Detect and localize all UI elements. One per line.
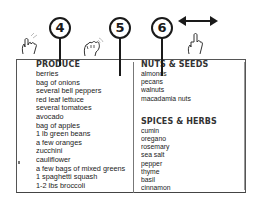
frame-edge: [244, 62, 245, 190]
tap-hand-icon: [20, 32, 42, 56]
section-heading-nuts-seeds: NUTS & SEEDS: [141, 60, 241, 70]
list-item: almonds: [141, 70, 241, 78]
section-spacer: [141, 103, 241, 117]
nuts-seeds-column[interactable]: NUTS & SEEDS almonds pecans walnuts maca…: [141, 60, 241, 191]
list-item: rosemary: [141, 143, 241, 151]
callout-5: 5: [109, 17, 131, 39]
callout-line-5: [119, 38, 121, 76]
edge-mark: [18, 161, 20, 164]
callout-6: 6: [151, 17, 173, 39]
horizontal-drag-hand-icon: [185, 32, 207, 56]
callout-line-4: [59, 38, 61, 66]
list-item: walnuts: [141, 86, 241, 94]
produce-column[interactable]: PRODUCE berries bag of onions several be…: [36, 60, 132, 191]
section-heading-spices-herbs: SPICES & HERBS: [141, 117, 241, 127]
column-divider: [133, 62, 134, 193]
callout-4: 4: [49, 17, 71, 39]
list-item: sea salt: [141, 151, 241, 159]
list-item: basil: [141, 176, 241, 184]
double-headed-horizontal-arrow-icon: [178, 15, 218, 27]
callout-line-6: [161, 38, 163, 76]
list-item: cinnamon: [141, 184, 241, 191]
swipe-hand-icon: [83, 34, 105, 58]
list-item: cumin: [141, 127, 241, 135]
list-item: thyme: [141, 168, 241, 176]
list-item: macadamia nuts: [141, 95, 241, 103]
list-item: pepper: [141, 160, 241, 168]
list-item: oregano: [141, 135, 241, 143]
list-item: pecans: [141, 78, 241, 86]
list-item: bag of carrot sticks: [36, 190, 132, 191]
